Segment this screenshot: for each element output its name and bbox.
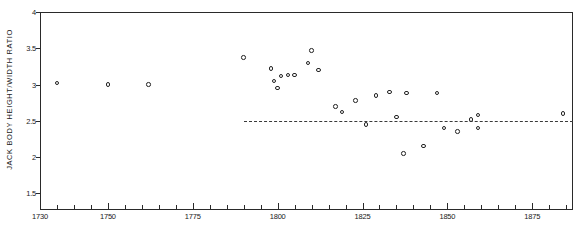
- axis-spine-bottom: [40, 209, 573, 210]
- y-tick-label: 4: [32, 8, 36, 17]
- data-point: [340, 110, 345, 115]
- x-minor-tick-mark: [261, 205, 262, 209]
- x-minor-tick-mark: [74, 205, 75, 209]
- x-tick-label: 1775: [185, 212, 201, 221]
- y-tick-mark: [36, 12, 41, 13]
- x-tick-mark: [108, 203, 109, 209]
- y-tick-label: 3.5: [26, 44, 36, 53]
- x-minor-tick-mark: [91, 205, 92, 209]
- x-tick-mark: [193, 203, 194, 209]
- y-tick-mark: [36, 48, 41, 49]
- x-minor-tick-mark: [464, 205, 465, 209]
- x-tick-label: 1875: [524, 212, 540, 221]
- y-tick-label: 2: [32, 153, 36, 162]
- data-point: [469, 117, 474, 122]
- data-point: [364, 122, 369, 127]
- data-point: [401, 151, 406, 156]
- y-tick-mark: [36, 85, 41, 86]
- y-tick-mark: [36, 193, 41, 194]
- x-minor-tick-mark: [57, 205, 58, 209]
- x-tick-label: 1730: [32, 212, 48, 221]
- axis-spine-top: [40, 12, 573, 13]
- data-point: [353, 98, 358, 103]
- data-point: [106, 82, 111, 87]
- x-minor-tick-mark: [566, 205, 567, 209]
- y-tick-mark: [36, 121, 41, 122]
- x-tick-label: 1850: [439, 212, 455, 221]
- axis-spine-right: [572, 12, 573, 210]
- data-point: [55, 81, 60, 86]
- y-tick-label: 3: [32, 80, 36, 89]
- axis-spine-left: [40, 12, 41, 210]
- x-minor-tick-mark: [329, 205, 330, 209]
- x-minor-tick-mark: [312, 205, 313, 209]
- data-point: [275, 86, 280, 91]
- data-point: [404, 91, 409, 96]
- data-point: [286, 73, 291, 78]
- x-minor-tick-mark: [125, 205, 126, 209]
- data-point: [316, 68, 321, 73]
- x-tick-mark: [278, 203, 279, 209]
- data-point: [272, 79, 277, 84]
- data-point: [292, 73, 297, 78]
- x-tick-label: 1750: [100, 212, 116, 221]
- x-minor-tick-mark: [515, 205, 516, 209]
- data-point: [561, 111, 566, 116]
- y-tick-mark: [36, 157, 41, 158]
- data-point: [455, 129, 460, 134]
- x-minor-tick-mark: [498, 205, 499, 209]
- x-minor-tick-mark: [142, 205, 143, 209]
- plot-area: 1.522.533.54 173017501775180018251850187…: [40, 12, 573, 210]
- data-point: [387, 90, 392, 95]
- x-minor-tick-mark: [379, 205, 380, 209]
- data-point: [146, 82, 151, 87]
- data-point: [279, 74, 284, 79]
- data-point: [421, 144, 426, 149]
- x-tick-label: 1800: [270, 212, 286, 221]
- y-tick-label: 2.5: [26, 116, 36, 125]
- x-minor-tick-mark: [396, 205, 397, 209]
- data-point: [306, 61, 311, 66]
- data-point: [269, 66, 274, 71]
- x-minor-tick-mark: [549, 205, 550, 209]
- x-minor-tick-mark: [481, 205, 482, 209]
- x-tick-mark: [532, 203, 533, 209]
- x-minor-tick-mark: [159, 205, 160, 209]
- y-axis-title: JACK BODY HEIGHT/WIDTH RATIO: [2, 0, 16, 198]
- data-point: [374, 93, 379, 98]
- data-point: [241, 55, 246, 60]
- x-tick-label: 1825: [355, 212, 371, 221]
- y-tick-label: 1.5: [26, 189, 36, 198]
- x-minor-tick-mark: [346, 205, 347, 209]
- x-minor-tick-mark: [430, 205, 431, 209]
- x-tick-mark: [40, 203, 41, 209]
- x-minor-tick-mark: [295, 205, 296, 209]
- x-minor-tick-mark: [227, 205, 228, 209]
- x-minor-tick-mark: [210, 205, 211, 209]
- x-minor-tick-mark: [176, 205, 177, 209]
- data-point: [442, 126, 447, 131]
- data-point: [394, 115, 399, 120]
- data-point: [476, 113, 481, 118]
- x-minor-tick-mark: [244, 205, 245, 209]
- x-minor-tick-mark: [413, 205, 414, 209]
- data-point: [333, 104, 338, 109]
- data-point: [435, 91, 440, 96]
- y-axis-title-text: JACK BODY HEIGHT/WIDTH RATIO: [5, 29, 14, 170]
- x-tick-mark: [363, 203, 364, 209]
- x-tick-mark: [447, 203, 448, 209]
- scatter-chart-figure: JACK BODY HEIGHT/WIDTH RATIO 1.522.533.5…: [0, 0, 581, 237]
- data-point: [476, 126, 481, 131]
- data-point: [309, 48, 314, 53]
- reference-line-2-5: [244, 121, 573, 122]
